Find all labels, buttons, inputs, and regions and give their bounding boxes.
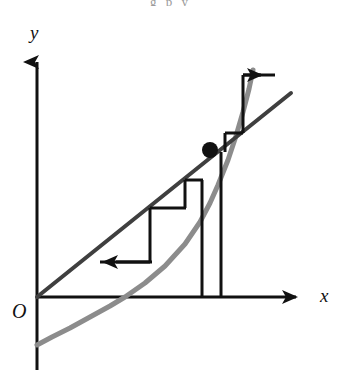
cobweb-staircase (100, 75, 275, 297)
origin-label: O (12, 301, 26, 321)
y-axis-label: y (30, 23, 38, 42)
cobweb-diagram-canvas (0, 0, 341, 375)
x-axis-label: x (320, 286, 328, 305)
cobweb-arrows (116, 75, 261, 262)
cobweb-figure: g p y y x (0, 0, 341, 375)
fixed-point-dot (202, 142, 218, 158)
